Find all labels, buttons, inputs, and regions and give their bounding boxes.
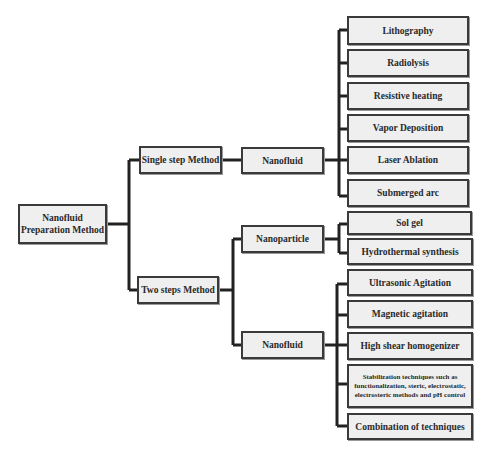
technique-lithography: Lithography <box>347 16 469 45</box>
technique-stabilization-techniques: Stabilization techniques such as functio… <box>347 364 473 408</box>
node-nanoparticle: Nanoparticle <box>241 225 324 253</box>
node-label: Submerged arc <box>377 187 439 199</box>
node-label: Nanofluid <box>262 339 303 351</box>
node-label: Sol gel <box>396 217 423 229</box>
node-single-step-nanofluid: Nanofluid <box>241 147 324 174</box>
node-label: Lithography <box>382 25 433 37</box>
node-label: Stabilization techniques such as functio… <box>349 373 471 400</box>
node-label: Vapor Deposition <box>373 122 443 134</box>
node-label: Two steps Method <box>141 284 215 296</box>
technique-laser-ablation: Laser Ablation <box>347 146 469 174</box>
technique-ultrasonic-agitation: Ultrasonic Agitation <box>347 269 473 296</box>
technique-radiolysis: Radiolysis <box>347 49 469 77</box>
node-label: Resistive heating <box>374 90 442 102</box>
technique-sol-gel: Sol gel <box>347 211 472 235</box>
node-label: High shear homogenizer <box>360 340 459 352</box>
node-label: Nanofluid Preparation Method <box>20 212 105 236</box>
node-two-step-nanofluid: Nanofluid <box>241 331 324 359</box>
technique-hydrothermal-synthesis: Hydrothermal synthesis <box>347 238 473 265</box>
node-label: Single step Method <box>142 154 220 166</box>
technique-vapor-deposition: Vapor Deposition <box>347 114 469 142</box>
root-node-nanofluid-preparation-method: Nanofluid Preparation Method <box>18 204 107 244</box>
technique-combination-of-techniques: Combination of techniques <box>347 413 473 440</box>
node-label: Ultrasonic Agitation <box>369 277 451 289</box>
technique-submerged-arc: Submerged arc <box>347 179 469 207</box>
node-label: Nanofluid <box>262 155 303 167</box>
node-two-steps-method: Two steps Method <box>137 276 219 304</box>
node-label: Magnetic agitation <box>372 308 448 320</box>
node-label: Radiolysis <box>387 57 429 69</box>
node-label: Nanoparticle <box>256 233 309 245</box>
node-label: Hydrothermal synthesis <box>361 246 458 258</box>
node-single-step-method: Single step Method <box>139 146 222 174</box>
technique-high-shear-homogenizer: High shear homogenizer <box>347 332 473 360</box>
technique-magnetic-agitation: Magnetic agitation <box>347 300 473 328</box>
technique-resistive-heating: Resistive heating <box>347 82 469 110</box>
node-label: Laser Ablation <box>378 154 438 166</box>
node-label: Combination of techniques <box>355 421 464 433</box>
